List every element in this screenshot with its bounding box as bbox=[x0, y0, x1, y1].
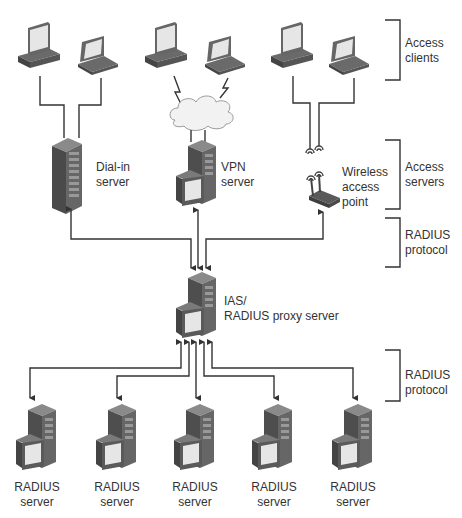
label-line: server bbox=[96, 175, 130, 190]
tier-label-line: clients bbox=[405, 51, 444, 66]
label-line: server bbox=[12, 495, 62, 510]
network-diagram bbox=[0, 0, 462, 518]
client-desktop-1 bbox=[18, 22, 60, 68]
label-line: server bbox=[221, 175, 254, 190]
client-desktop-2 bbox=[145, 22, 187, 68]
dial-in-server-icon bbox=[52, 138, 82, 214]
tier-label-line: servers bbox=[405, 175, 444, 190]
client-laptop-2 bbox=[205, 36, 245, 75]
label-line: VPN bbox=[221, 160, 254, 175]
label-line: Dial-in bbox=[96, 160, 130, 175]
client-desktop-3 bbox=[271, 22, 313, 68]
label-line: IAS/ bbox=[224, 294, 339, 309]
tier-label-access-servers: Access servers bbox=[405, 160, 444, 190]
label-line: server bbox=[328, 495, 378, 510]
tier-label-line: RADIUS bbox=[405, 228, 450, 243]
dial-in-client-links bbox=[40, 76, 101, 138]
tier-label-radius-protocol-top: RADIUS protocol bbox=[405, 228, 450, 258]
label-line: server bbox=[92, 495, 142, 510]
radius-server-icon-5 bbox=[332, 404, 372, 470]
radius-server-icon-3 bbox=[174, 404, 214, 470]
tier-label-access-clients: Access clients bbox=[405, 36, 444, 66]
label-line: server bbox=[249, 495, 299, 510]
label-line: RADIUS bbox=[249, 480, 299, 495]
label-line: access bbox=[342, 180, 388, 195]
label-line: RADIUS bbox=[170, 480, 220, 495]
client-laptop-1 bbox=[78, 36, 118, 75]
vpn-server-icon bbox=[176, 140, 216, 206]
radius-server-icon-1 bbox=[16, 404, 56, 470]
tier-brackets bbox=[385, 20, 400, 401]
proxy-server-icon bbox=[176, 272, 216, 338]
proxy-to-radius-links bbox=[30, 342, 353, 398]
radius-server-icon-4 bbox=[252, 404, 292, 470]
wireless-client-links bbox=[293, 76, 354, 149]
proxy-server-label: IAS/ RADIUS proxy server bbox=[224, 294, 339, 324]
label-line: RADIUS bbox=[12, 480, 62, 495]
dial-in-server-label: Dial-in server bbox=[96, 160, 130, 190]
cloud-vpn-links bbox=[191, 130, 205, 142]
label-line: RADIUS proxy server bbox=[224, 309, 339, 324]
label-line: point bbox=[342, 195, 388, 210]
tier-label-line: Access bbox=[405, 160, 444, 175]
tier-label-line: RADIUS bbox=[405, 368, 450, 383]
radius-server-label-1: RADIUS server bbox=[12, 480, 62, 510]
label-line: server bbox=[170, 495, 220, 510]
radius-server-label-2: RADIUS server bbox=[92, 480, 142, 510]
radius-server-icon-2 bbox=[96, 404, 136, 470]
label-line: RADIUS bbox=[328, 480, 378, 495]
access-to-proxy-links bbox=[71, 209, 323, 268]
client-laptop-3 bbox=[329, 36, 369, 75]
vpn-server-label: VPN server bbox=[221, 160, 254, 190]
tier-label-radius-protocol-bottom: RADIUS protocol bbox=[405, 368, 450, 398]
wireless-access-point-icon bbox=[307, 172, 340, 208]
tier-label-line: Access bbox=[405, 36, 444, 51]
wireless-access-point-label: Wireless access point bbox=[342, 165, 388, 210]
tier-label-line: protocol bbox=[405, 383, 450, 398]
label-line: Wireless bbox=[342, 165, 388, 180]
label-line: RADIUS bbox=[92, 480, 142, 495]
radius-server-label-4: RADIUS server bbox=[249, 480, 299, 510]
client-wireless-signal-icon bbox=[306, 146, 323, 154]
radius-server-label-3: RADIUS server bbox=[170, 480, 220, 510]
radius-server-label-5: RADIUS server bbox=[328, 480, 378, 510]
tier-label-line: protocol bbox=[405, 243, 450, 258]
